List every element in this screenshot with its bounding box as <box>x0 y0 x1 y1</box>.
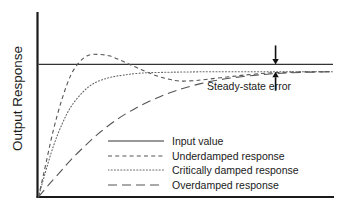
legend-swatch-long-dashed <box>108 178 164 192</box>
legend-label-overdamped: Overdamped response <box>164 179 279 191</box>
legend-swatch-dashed <box>108 149 164 163</box>
legend-label-critically-damped: Critically damped response <box>164 164 299 176</box>
legend-swatch-dotted <box>108 163 164 177</box>
legend-label-input-value: Input value <box>164 135 223 147</box>
steady-state-error-label: Steady-state error <box>207 80 291 92</box>
legend-swatch-solid <box>108 134 164 148</box>
legend-label-underdamped: Underdamped response <box>164 150 285 162</box>
legend-item-critically-damped: Critically damped response <box>108 163 336 178</box>
chart-figure: Output Response Steady-state error Input… <box>0 0 340 210</box>
legend-item-overdamped: Overdamped response <box>108 178 336 193</box>
legend-item-input-value: Input value <box>108 134 336 149</box>
chart-legend: Input value Underdamped response Critica… <box>108 134 336 192</box>
legend-item-underdamped: Underdamped response <box>108 149 336 164</box>
